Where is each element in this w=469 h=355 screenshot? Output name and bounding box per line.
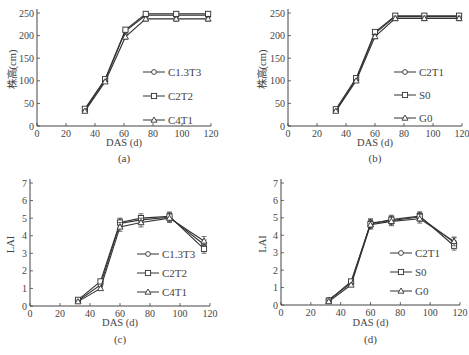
- legend-circle-marker-icon: [152, 70, 157, 75]
- x-tick-label: 120: [455, 128, 469, 139]
- chart-panel-b: 020406080100120050100150200250DAS (d)株高(…: [256, 8, 469, 166]
- y-tick-label: 50: [275, 98, 285, 109]
- legend-item: C2T1: [390, 247, 440, 259]
- legend-label: C1.3T3: [168, 66, 202, 78]
- legend-item: C2T1: [394, 66, 444, 78]
- x-tick-label: 40: [341, 128, 351, 139]
- x-tick-label: 100: [423, 307, 438, 318]
- legend: C1.3T3C2T2C4T1: [143, 66, 202, 126]
- square-marker-icon: [123, 27, 128, 32]
- y-tick-label: 3: [22, 248, 27, 259]
- y-tick-label: 7: [273, 178, 278, 189]
- legend-label: G0: [419, 112, 433, 124]
- x-tick-label: 80: [399, 128, 409, 139]
- y-tick-label: 2: [273, 265, 278, 276]
- legend-square-marker-icon: [402, 92, 407, 97]
- x-tick-label: 20: [61, 128, 71, 139]
- series-g0: [326, 214, 457, 303]
- figure-four-panel-chart: 020406080100120050100150200250DAS (d)株高(…: [0, 0, 469, 355]
- x-tick-label: 0: [279, 307, 284, 318]
- y-tick-label: 4: [22, 230, 27, 241]
- legend-circle-marker-icon: [403, 70, 408, 75]
- y-tick-label: 6: [22, 195, 27, 206]
- x-tick-label: 0: [286, 128, 291, 139]
- series-c2t1: [333, 14, 461, 112]
- panel-caption: (a): [118, 152, 131, 165]
- x-tick-label: 120: [453, 307, 468, 318]
- panel-caption: (c): [114, 333, 127, 346]
- y-tick-label: 100: [19, 75, 34, 86]
- x-tick-label: 0: [35, 128, 40, 139]
- y-tick-label: 200: [270, 30, 285, 41]
- y-tick-label: 7: [22, 178, 27, 189]
- y-tick-label: 100: [270, 75, 285, 86]
- legend: C1.3T3C2T2C4T1: [137, 248, 196, 298]
- y-tick-label: 50: [24, 98, 34, 109]
- y-tick-label: 0: [29, 121, 34, 132]
- legend-item: C2T2: [143, 90, 193, 102]
- legend-square-marker-icon: [145, 270, 150, 275]
- x-tick-label: 80: [395, 307, 405, 318]
- y-tick-label: 3: [273, 247, 278, 258]
- x-axis-label: DAS (d): [357, 137, 393, 149]
- x-tick-label: 120: [204, 128, 219, 139]
- legend-item: G0: [390, 285, 429, 297]
- y-axis-label: 株高(cm): [256, 49, 269, 89]
- chart-panel-a: 020406080100120050100150200250DAS (d)株高(…: [6, 8, 219, 166]
- legend-label: C2T1: [415, 247, 440, 259]
- legend-label: C2T2: [168, 90, 193, 102]
- x-tick-label: 40: [336, 307, 346, 318]
- legend-label: C2T2: [162, 267, 187, 279]
- x-tick-label: 100: [173, 308, 188, 319]
- legend-item: C4T1: [137, 286, 187, 298]
- legend-label: C1.3T3: [162, 248, 196, 260]
- y-tick-label: 0: [273, 300, 278, 311]
- x-tick-label: 120: [203, 308, 218, 319]
- x-tick-label: 80: [148, 128, 158, 139]
- y-tick-label: 200: [19, 30, 34, 41]
- legend-item: G0: [394, 112, 433, 124]
- x-tick-label: 80: [145, 308, 155, 319]
- y-tick-label: 150: [19, 53, 34, 64]
- x-tick-label: 20: [312, 128, 322, 139]
- legend-item: C1.3T3: [143, 66, 202, 78]
- y-tick-label: 4: [273, 230, 278, 241]
- y-tick-label: 250: [270, 8, 285, 19]
- y-axis-label: LAI: [257, 235, 268, 253]
- y-axis-label: LAI: [5, 235, 16, 253]
- legend-label: S0: [415, 266, 427, 278]
- y-tick-label: 5: [273, 212, 278, 223]
- x-axis-label: DAS (d): [106, 137, 142, 149]
- legend-square-marker-icon: [398, 269, 403, 274]
- legend-label: C2T1: [419, 66, 444, 78]
- legend-label: C4T1: [168, 114, 193, 126]
- panel-caption: (b): [369, 152, 382, 165]
- legend-item: S0: [390, 266, 427, 278]
- legend-item: C2T2: [137, 267, 187, 279]
- series-g0: [333, 15, 462, 113]
- square-marker-icon: [201, 246, 206, 251]
- y-tick-label: 1: [273, 282, 278, 293]
- legend-label: S0: [419, 89, 431, 101]
- series-line: [336, 18, 459, 111]
- x-tick-label: 100: [175, 128, 190, 139]
- x-tick-label: 20: [306, 307, 316, 318]
- legend-label: G0: [415, 285, 429, 297]
- y-tick-label: 1: [22, 283, 27, 294]
- y-tick-label: 0: [22, 301, 27, 312]
- legend-item: C4T1: [143, 114, 193, 126]
- y-axis-label: 株高(cm): [6, 49, 19, 89]
- x-tick-label: 40: [85, 308, 95, 319]
- x-axis-label: DAS (d): [102, 317, 138, 329]
- legend-square-marker-icon: [151, 93, 156, 98]
- legend: C2T1S0G0: [390, 247, 440, 297]
- chart-panel-d: 02040608010012001234567DAS (d)LAI(d)C2T1…: [257, 178, 468, 347]
- x-tick-label: 20: [55, 308, 65, 319]
- chart-panel-c: 02040608010012001234567DAS (d)LAI(c)C1.3…: [5, 178, 218, 347]
- y-tick-label: 6: [273, 195, 278, 206]
- legend-label: C4T1: [162, 286, 187, 298]
- x-tick-label: 40: [90, 128, 100, 139]
- y-tick-label: 2: [22, 265, 27, 276]
- x-axis-label: DAS (d): [353, 317, 389, 329]
- series-s0: [333, 13, 461, 112]
